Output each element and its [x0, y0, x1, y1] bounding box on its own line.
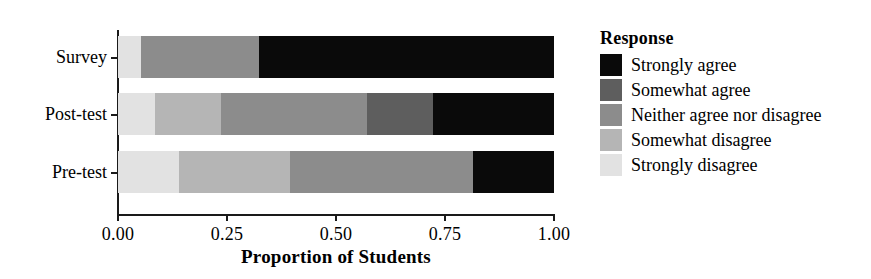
legend-item[interactable]: Strongly disagree	[600, 152, 862, 177]
legend-item[interactable]: Somewhat disagree	[600, 127, 862, 152]
y-axis-tick	[111, 172, 117, 174]
bar-row	[118, 36, 554, 78]
legend-item-label: Strongly agree	[631, 56, 736, 74]
legend-title: Response	[600, 28, 862, 49]
legend-swatch-icon	[600, 54, 622, 76]
bar-segment	[118, 151, 179, 193]
legend-items: Strongly agreeSomewhat agreeNeither agre…	[600, 52, 862, 177]
x-axis-title: Proportion of Students	[118, 246, 554, 268]
bar-segment	[118, 36, 141, 78]
legend-item[interactable]: Neither agree nor disagree	[600, 102, 862, 127]
y-axis-tick-label: Post-test	[45, 104, 107, 125]
y-axis-tick	[111, 57, 117, 59]
legend-swatch-icon	[600, 129, 622, 151]
chart-legend: Response Strongly agreeSomewhat agreeNei…	[600, 28, 862, 177]
legend-swatch-icon	[600, 79, 622, 101]
bar-row	[118, 93, 554, 135]
legend-swatch-icon	[600, 104, 622, 126]
bar-segment	[155, 93, 221, 135]
x-axis-tick-label: 0.75	[429, 224, 461, 245]
x-axis-tick-label: 1.00	[538, 224, 570, 245]
bar-segment	[179, 151, 290, 193]
y-axis-tick-label: Survey	[56, 47, 107, 68]
x-axis-tick-label: 0.25	[211, 224, 243, 245]
bar-segment	[433, 93, 554, 135]
bar-segment	[290, 151, 473, 193]
bar-segment	[221, 93, 367, 135]
legend-swatch-icon	[600, 154, 622, 176]
x-axis-tick-label: 0.50	[320, 224, 352, 245]
bar-segment	[118, 93, 155, 135]
bar-segment	[473, 151, 554, 193]
legend-item-label: Somewhat disagree	[631, 131, 771, 149]
bar-row	[118, 151, 554, 193]
legend-item-label: Neither agree nor disagree	[631, 106, 821, 124]
chart-figure: 0.000.250.500.751.00SurveyPost-testPre-t…	[0, 0, 871, 279]
bar-segment	[141, 36, 259, 78]
x-axis-tick	[226, 215, 228, 221]
x-axis-tick	[444, 215, 446, 221]
x-axis-tick	[335, 215, 337, 221]
x-axis-tick	[553, 215, 555, 221]
y-axis-tick	[111, 114, 117, 116]
y-axis-tick-label: Pre-test	[52, 162, 107, 183]
legend-item-label: Strongly disagree	[631, 156, 757, 174]
bar-segment	[367, 93, 433, 135]
plot-area: 0.000.250.500.751.00SurveyPost-testPre-t…	[118, 30, 554, 215]
legend-item-label: Somewhat agree	[631, 81, 750, 99]
bar-segment	[259, 36, 554, 78]
legend-item[interactable]: Somewhat agree	[600, 77, 862, 102]
x-axis-tick	[117, 215, 119, 221]
x-axis-tick-label: 0.00	[102, 224, 134, 245]
legend-item[interactable]: Strongly agree	[600, 52, 862, 77]
